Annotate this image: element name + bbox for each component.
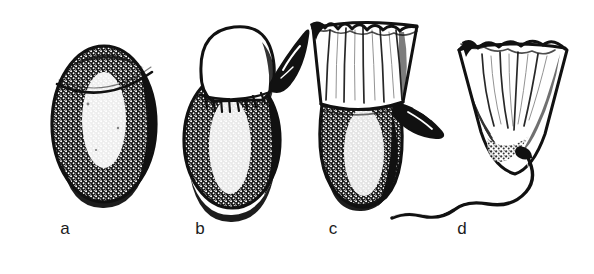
- specimen-b-lid-lifting: [180, 27, 309, 222]
- panel-label-d: d: [447, 220, 477, 237]
- figure-illustration: a b c d: [0, 0, 594, 274]
- panel-label-c: c: [318, 220, 348, 237]
- specimen-a-closed-body: [45, 40, 165, 210]
- specimen-c-flared-cup: [310, 21, 443, 211]
- illustration-canvas: [0, 0, 594, 274]
- panel-label-b: b: [185, 220, 215, 237]
- panel-label-a: a: [50, 220, 80, 237]
